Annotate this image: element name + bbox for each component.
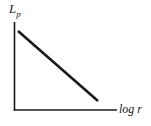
y-axis-label-subscript: p (16, 9, 21, 19)
x-axis-label: log r (119, 103, 142, 115)
figure-sound-pressure-vs-log-distance: Lp log r (0, 0, 151, 126)
data-line-sound-pressure-decay (18, 31, 98, 101)
y-axis-label: Lp (9, 2, 21, 19)
